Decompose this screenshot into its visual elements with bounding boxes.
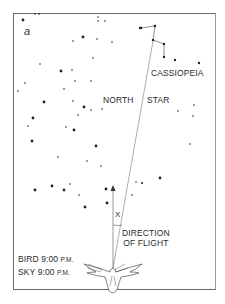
bird-ampm: P.M. — [61, 256, 74, 263]
sky-time-label: SKY 9:00 P.M. — [18, 267, 70, 278]
cassiopeia-label: CASSIOPEIA — [151, 68, 204, 78]
stars — [17, 13, 200, 208]
panel-letter: a — [24, 25, 30, 37]
arrow-up-icon — [111, 185, 116, 268]
bird-time-label: BIRD 9:00 P.M. — [18, 254, 74, 265]
star-label: STAR — [147, 95, 169, 105]
cassiopeia-constellation — [140, 25, 165, 58]
direction-of-flight-label: DIRECTION OF FLIGHT — [122, 228, 170, 248]
bird-label: BIRD — [18, 254, 39, 264]
sky-ampm: P.M. — [57, 269, 70, 276]
direction-line-1: DIRECTION — [122, 228, 170, 238]
bird-time: 9:00 — [41, 254, 58, 264]
direction-line-2: OF FLIGHT — [122, 238, 170, 248]
sky-label: SKY — [18, 267, 35, 277]
angle-label: X — [115, 210, 120, 220]
north-label: NORTH — [103, 95, 134, 105]
angle-arc — [113, 225, 122, 226]
sky-time: 9:00 — [38, 267, 55, 277]
bird-icon — [84, 264, 142, 293]
